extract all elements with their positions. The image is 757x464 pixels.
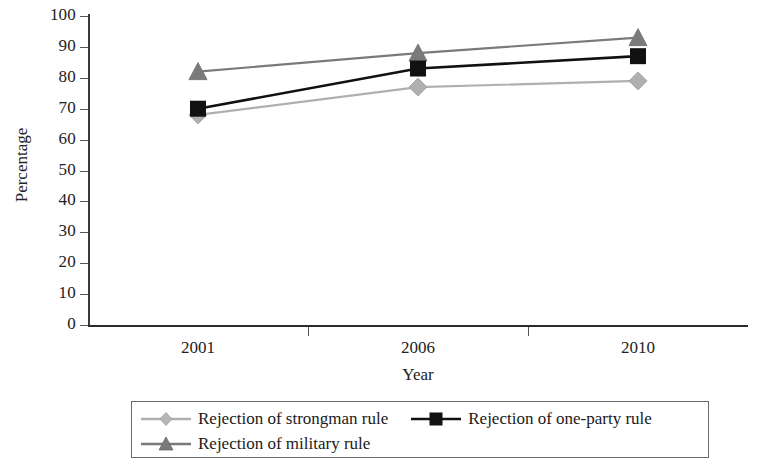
triangle-marker-icon (140, 435, 192, 453)
y-axis-tick-label: 0 (16, 315, 76, 332)
diamond-marker-icon (140, 410, 192, 428)
y-axis-tick-label: 90 (16, 37, 76, 54)
legend-label-strongman: Rejection of strongman rule (198, 410, 388, 428)
y-axis-tick (80, 171, 88, 172)
legend-entry-military: Rejection of military rule (140, 435, 370, 453)
x-axis-tick (308, 327, 309, 336)
series-square (190, 48, 646, 117)
y-axis-line (88, 14, 90, 327)
y-axis-tick (80, 294, 88, 295)
x-axis-title: Year (88, 365, 748, 385)
y-axis-tick-label: 20 (16, 253, 76, 270)
series-triangle (189, 29, 647, 80)
y-axis-tick-label: 40 (16, 191, 76, 208)
x-axis-tick-label: 2006 (358, 338, 478, 358)
x-axis-tick-label: 2010 (578, 338, 698, 358)
square-marker-icon (410, 410, 462, 428)
y-axis-tick (80, 325, 88, 326)
y-axis-tick-label: 50 (16, 161, 76, 178)
legend-label-one-party: Rejection of one-party rule (468, 410, 652, 428)
x-axis-line (88, 325, 748, 327)
y-axis-tick-label: 70 (16, 99, 76, 116)
y-axis-tick (80, 78, 88, 79)
x-axis-tick-label: 2001 (138, 338, 258, 358)
legend-entry-strongman: Rejection of strongman rule (140, 410, 388, 428)
y-axis-tick (80, 140, 88, 141)
y-axis-tick (80, 16, 88, 17)
y-axis-tick (80, 232, 88, 233)
y-axis-tick-label: 30 (16, 222, 76, 239)
y-axis-tick-label: 100 (16, 6, 76, 23)
x-axis-tick (528, 327, 529, 336)
line-chart-figure: Percentage 0102030405060708090100 200120… (0, 0, 757, 464)
y-axis-tick (80, 47, 88, 48)
y-axis-tick-label: 60 (16, 130, 76, 147)
y-axis-tick (80, 201, 88, 202)
y-axis-tick-label: 10 (16, 284, 76, 301)
y-axis-tick-label: 80 (16, 68, 76, 85)
legend-label-military: Rejection of military rule (198, 435, 370, 453)
legend-row-bottom: Rejection of military rule (140, 431, 700, 456)
chart-legend: Rejection of strongman rule Rejection of… (131, 401, 709, 458)
legend-row-top: Rejection of strongman rule Rejection of… (140, 406, 700, 431)
series-diamond (189, 72, 647, 124)
legend-entry-one-party: Rejection of one-party rule (410, 410, 652, 428)
y-axis-tick (80, 263, 88, 264)
y-axis-tick (80, 109, 88, 110)
